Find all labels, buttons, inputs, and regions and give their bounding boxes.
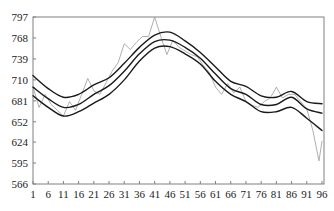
plot-frame: [33, 17, 324, 184]
x-tick-label: 66: [225, 188, 237, 200]
x-tick-label: 31: [119, 188, 130, 200]
y-tick-label: 768: [12, 32, 29, 44]
x-tick-label: 41: [149, 188, 160, 200]
x-tick-label: 26: [104, 188, 116, 200]
x-tick-label: 96: [317, 188, 329, 200]
x-tick-label: 16: [73, 188, 85, 200]
x-tick-label: 86: [286, 188, 298, 200]
x-tick-label: 91: [301, 188, 312, 200]
y-tick-label: 797: [12, 11, 29, 23]
y-tick-label: 566: [12, 178, 29, 190]
x-tick-label: 71: [240, 188, 251, 200]
plot-border: [33, 17, 324, 184]
y-tick-label: 595: [12, 157, 29, 169]
series-actual-line: [33, 17, 322, 161]
line-chart: 797768739710681652624595566 161116212631…: [0, 0, 334, 211]
x-tick-label: 21: [88, 188, 99, 200]
y-tick-label: 624: [12, 136, 29, 148]
y-axis: 797768739710681652624595566: [12, 11, 37, 190]
y-tick-label: 710: [12, 74, 29, 86]
x-tick-label: 76: [256, 188, 268, 200]
x-tick-label: 6: [45, 188, 51, 200]
y-tick-label: 652: [12, 116, 29, 128]
x-tick-label: 46: [164, 188, 176, 200]
x-tick-label: 1: [30, 188, 36, 200]
x-tick-label: 36: [134, 188, 146, 200]
y-tick-label: 739: [12, 53, 29, 65]
x-tick-label: 51: [180, 188, 191, 200]
x-tick-label: 11: [58, 188, 69, 200]
y-tick-label: 681: [12, 95, 29, 107]
series-lower-line: [33, 46, 322, 130]
series-middle-line: [33, 40, 322, 114]
x-tick-label: 61: [210, 188, 221, 200]
series-layer: [33, 17, 322, 161]
x-tick-label: 56: [195, 188, 207, 200]
x-tick-label: 81: [271, 188, 282, 200]
